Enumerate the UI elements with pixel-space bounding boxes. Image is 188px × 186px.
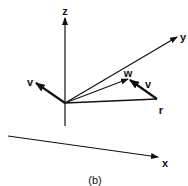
vector-r-label: r	[159, 104, 164, 116]
vector-v-label: v	[27, 76, 34, 88]
vector-r: r	[65, 99, 164, 116]
vector-w-label: w	[123, 67, 133, 79]
z-axis-label: z	[62, 5, 68, 17]
vector-v-origin: v	[27, 76, 65, 103]
y-axis-label: y	[180, 31, 187, 43]
vector-v-at-r-label: v	[145, 78, 152, 90]
z-axis: z	[62, 5, 68, 126]
vector-v-at-r: v	[130, 78, 157, 99]
vector-diagram: z y x v r w v (b)	[0, 0, 188, 186]
x-axis: x	[8, 136, 169, 169]
figure-caption: (b)	[88, 174, 101, 186]
x-axis-label: x	[162, 157, 169, 169]
